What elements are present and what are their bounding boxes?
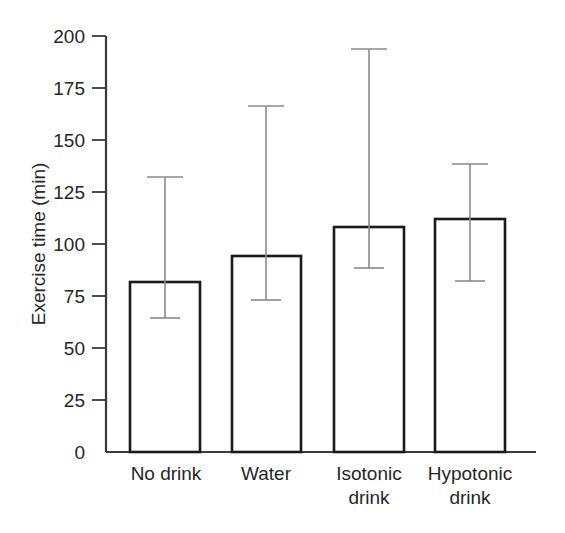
x-label-isotonic-line1: Isotonic	[336, 463, 401, 484]
x-label-water: Water	[241, 463, 292, 484]
y-tick-label-75: 75	[64, 286, 85, 307]
bar-chart-figure: 200 175 150 125 100 75 50 25 0 Exercise …	[0, 0, 565, 533]
y-tick-label-0: 0	[74, 442, 85, 463]
x-label-no-drink: No drink	[131, 463, 202, 484]
chart-svg: 200 175 150 125 100 75 50 25 0 Exercise …	[0, 0, 565, 533]
y-tick-label-100: 100	[53, 234, 85, 255]
y-tick-label-25: 25	[64, 390, 85, 411]
y-tick-label-50: 50	[64, 338, 85, 359]
y-tick-label-150: 150	[53, 130, 85, 151]
x-label-isotonic-line2: drink	[348, 487, 390, 508]
x-label-hypotonic-line1: Hypotonic	[428, 463, 513, 484]
y-tick-label-125: 125	[53, 182, 85, 203]
x-label-hypotonic-line2: drink	[449, 487, 491, 508]
y-tick-label-175: 175	[53, 78, 85, 99]
y-axis-title: Exercise time (min)	[28, 163, 49, 326]
y-tick-label-200: 200	[53, 26, 85, 47]
